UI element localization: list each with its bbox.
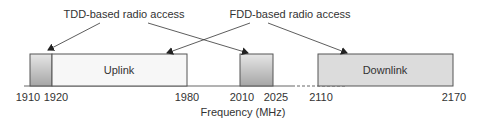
tdd-arrow-low [48, 23, 100, 50]
fdd-annotation-label: FDD-based radio access [229, 8, 351, 20]
tick-label: 2025 [264, 91, 288, 103]
frequency-diagram: Uplink Downlink TDD-based radio access F… [0, 0, 480, 123]
fdd-arrow-downlink [268, 23, 347, 53]
uplink-label: Uplink [104, 64, 135, 76]
tdd-band-low [30, 54, 52, 86]
tdd-band-high [240, 54, 273, 86]
tick-label: 1910 [16, 91, 40, 103]
tick-label: 1980 [175, 91, 199, 103]
tick-label: 2170 [442, 91, 466, 103]
tick-label: 2010 [230, 91, 254, 103]
axis-title: Frequency (MHz) [201, 106, 286, 118]
tdd-annotation-label: TDD-based radio access [63, 8, 185, 20]
tdd-arrow-high [148, 23, 248, 53]
tick-label: 2110 [309, 91, 333, 103]
fdd-arrow-uplink [167, 23, 250, 53]
downlink-label: Downlink [363, 64, 408, 76]
tick-label: 1920 [44, 91, 68, 103]
